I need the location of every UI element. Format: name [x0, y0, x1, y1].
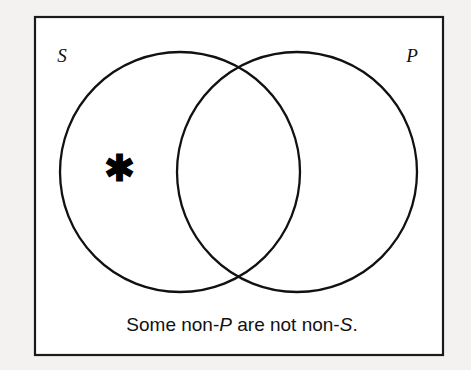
label-set-s: S [57, 45, 67, 66]
caption-middle: are not non- [232, 314, 340, 335]
label-set-p: P [405, 45, 418, 66]
venn-diagram-canvas: S P ✱ Some non-P are not non-S. [0, 0, 471, 370]
diagram-caption: Some non-P are not non-S. [126, 314, 357, 335]
asterisk-mark: ✱ [104, 148, 135, 189]
caption-suffix: . [352, 314, 357, 335]
caption-prefix: Some non- [126, 314, 219, 335]
caption-term-one: P [219, 314, 232, 335]
venn-diagram-figure: S P ✱ Some non-P are not non-S. [0, 0, 471, 370]
caption-term-two: S [340, 314, 353, 335]
